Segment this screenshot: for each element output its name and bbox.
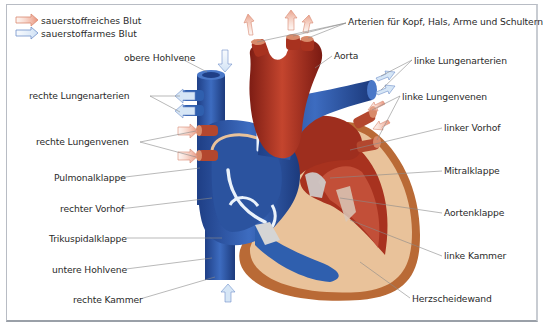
label-trikuspidalklappe: Trikuspidalklappe [49, 233, 127, 244]
label-pulmonalklappe: Pulmonalklappe [54, 172, 126, 183]
label-linke-lungenarterien: linke Lungenarterien [414, 55, 507, 66]
label-aortenklappe: Aortenklappe [444, 207, 504, 218]
legend-oxygen-rich: sauerstoffreiches Blut [41, 15, 141, 26]
label-herzscheidewand: Herzscheidewand [412, 293, 492, 304]
label-untere-hohlvene: untere Hohlvene [52, 264, 127, 275]
legend-arrow-oxygen-poor-icon [16, 27, 38, 39]
label-arterien-kopf: Arterien für Kopf, Hals, Arme und Schult… [348, 16, 543, 27]
legend-oxygen-poor: sauerstoffarmes Blut [41, 28, 137, 39]
label-rechte-lungenarterien: rechte Lungenarterien [29, 90, 130, 101]
label-rechte-lungenvenen: rechte Lungenvenen [36, 136, 129, 147]
legend-arrow-oxygen-rich-icon [16, 14, 38, 26]
heart-illustration [0, 0, 546, 328]
label-rechter-vorhof: rechter Vorhof [60, 203, 124, 214]
label-linker-vorhof: linker Vorhof [444, 122, 500, 133]
label-aorta: Aorta [334, 50, 358, 61]
label-linke-kammer: linke Kammer [444, 250, 506, 261]
label-rechte-kammer: rechte Kammer [73, 294, 143, 305]
label-obere-hohlvene: obere Hohlvene [124, 52, 195, 63]
label-mitralklappe: Mitralklappe [444, 165, 500, 176]
label-linke-lungenvenen: linke Lungenvenen [402, 91, 487, 102]
